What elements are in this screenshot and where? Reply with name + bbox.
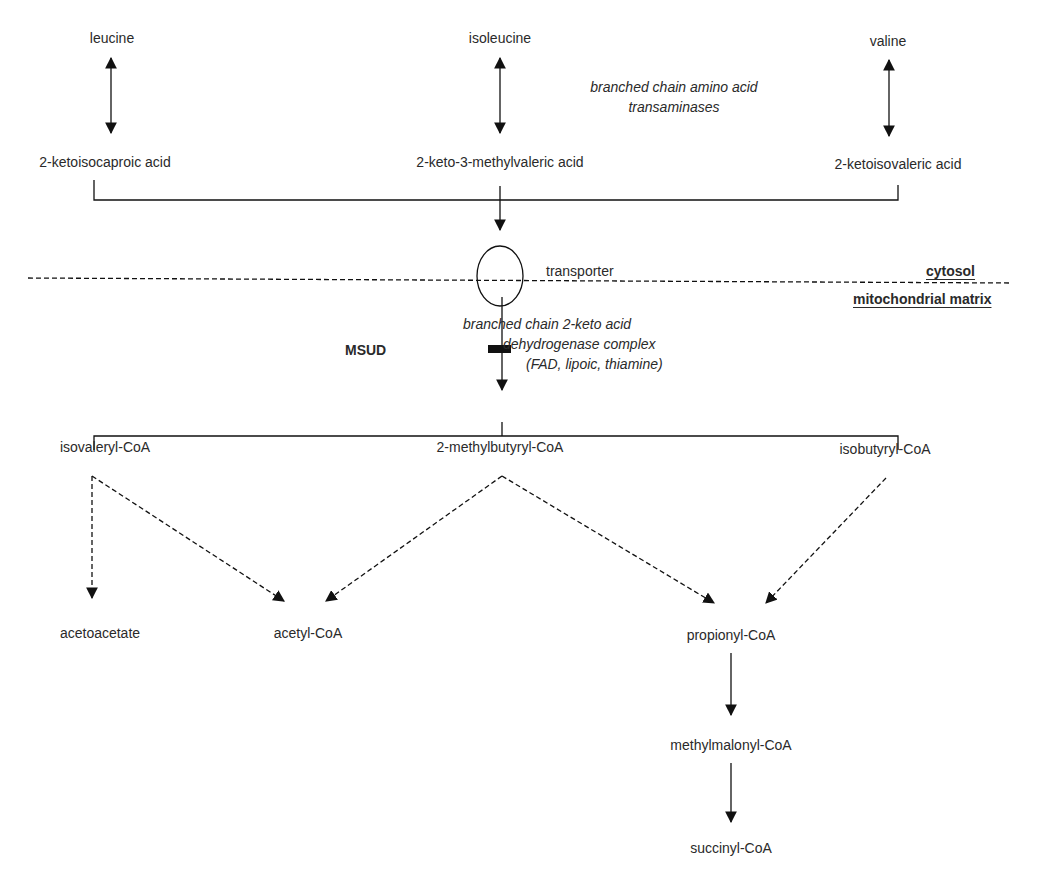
msud-label: MSUD: [345, 342, 386, 358]
bckdh-label-line1: branched chain 2-keto acid: [463, 316, 631, 332]
kic-label: 2-ketoisocaproic acid: [39, 154, 171, 170]
methylmalonyl-coa-label: methylmalonyl-CoA: [670, 737, 791, 753]
bckdh-label-line2: dehydrogenase complex: [503, 336, 656, 352]
isovaleryl-coa-label: isovaleryl-CoA: [60, 439, 150, 455]
bckdh-label-line3: (FAD, lipoic, thiamine): [526, 356, 663, 372]
succinyl-coa-label: succinyl-CoA: [690, 840, 772, 856]
methylbutyryl-coa-label: 2-methylbutyryl-CoA: [437, 439, 564, 455]
leucine-label: leucine: [90, 30, 134, 46]
isovaleryl-to-acetylcoa: [92, 476, 284, 601]
pathway-diagram: [0, 0, 1037, 875]
transporter-circle: [477, 246, 523, 306]
methylbutyryl-to-propionylcoa: [502, 476, 714, 603]
acetoacetate-label: acetoacetate: [60, 625, 140, 641]
kiv-label: 2-ketoisovaleric acid: [835, 156, 962, 172]
kmv-label: 2-keto-3-methylvaleric acid: [416, 154, 583, 170]
matrix-label: mitochondrial matrix: [853, 291, 991, 307]
acetyl-coa-label: acetyl-CoA: [274, 625, 342, 641]
isoleucine-label: isoleucine: [469, 30, 531, 46]
isobutyryl-coa-label: isobutyryl-CoA: [839, 441, 930, 457]
transaminase-label-line1: branched chain amino acid: [590, 79, 757, 95]
keto-acid-bracket: [94, 180, 898, 200]
transaminase-label-line2: transaminases: [628, 99, 719, 115]
propionyl-coa-label: propionyl-CoA: [687, 627, 776, 643]
valine-label: valine: [870, 33, 907, 49]
isobutyryl-to-propionylcoa: [766, 478, 886, 603]
transporter-label: transporter: [546, 263, 614, 279]
cytosol-label: cytosol: [926, 263, 975, 279]
membrane-line: [28, 278, 1012, 283]
methylbutyryl-to-acetylcoa: [326, 476, 502, 601]
